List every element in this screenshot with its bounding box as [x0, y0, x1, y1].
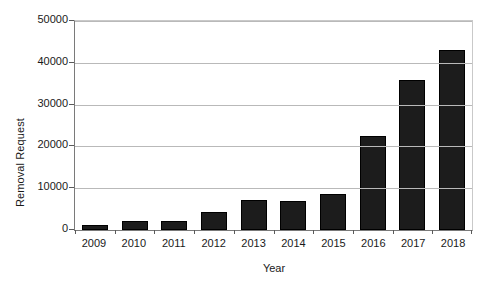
gridline: [75, 105, 472, 106]
bar: [201, 212, 227, 230]
x-axis-tick-label: 2012: [194, 237, 234, 249]
x-axis-tick-mark: [75, 230, 76, 234]
bar-slot: [115, 21, 155, 230]
x-axis-tick-mark: [393, 230, 394, 234]
y-axis-tick-label: 20000: [12, 138, 68, 150]
x-axis-tick-label: 2013: [234, 237, 274, 249]
x-axis-tick-mark: [234, 230, 235, 234]
y-axis-tick-mark: [69, 187, 74, 188]
x-axis-title: Year: [74, 262, 474, 274]
y-axis-tick-mark: [69, 229, 74, 230]
bar: [439, 50, 465, 230]
x-axis-tick-label: 2009: [74, 237, 114, 249]
bar-slot: [234, 21, 274, 230]
bar-slot: [393, 21, 433, 230]
y-axis-tick-label: 10000: [12, 180, 68, 192]
bar-slot: [154, 21, 194, 230]
x-axis-tick-mark: [353, 230, 354, 234]
bar-slot: [432, 21, 472, 230]
x-axis-tick-mark: [154, 230, 155, 234]
y-axis-tick-label: 50000: [12, 13, 68, 25]
bar-slot: [353, 21, 393, 230]
x-axis-tick-mark: [313, 230, 314, 234]
bar-slot: [194, 21, 234, 230]
x-axis-tick-mark: [115, 230, 116, 234]
bar: [241, 200, 267, 230]
bar-slot: [274, 21, 314, 230]
x-axis-tick-mark: [471, 230, 472, 234]
bars-layer: [75, 21, 472, 230]
y-axis-tick-mark: [69, 62, 74, 63]
x-axis-tick-labels: 2009201020112012201320142015201620172018: [74, 237, 473, 249]
x-axis-tick-label: 2017: [393, 237, 433, 249]
bar: [82, 225, 108, 230]
x-axis-tick-label: 2016: [353, 237, 393, 249]
bar: [161, 221, 187, 230]
y-axis-tick-label: 40000: [12, 55, 68, 67]
bar: [280, 201, 306, 230]
bar: [320, 194, 346, 230]
y-axis-tick-label: 0: [12, 222, 68, 234]
x-axis-tick-label: 2018: [433, 237, 473, 249]
y-axis-tick-mark: [69, 20, 74, 21]
bar-chart: Removal Request 010000200003000040000500…: [0, 0, 501, 289]
x-axis-tick-mark: [432, 230, 433, 234]
y-axis-tick-mark: [69, 145, 74, 146]
gridline: [75, 21, 472, 22]
gridline: [75, 188, 472, 189]
bar: [360, 136, 386, 230]
x-axis-tick-label: 2011: [154, 237, 194, 249]
bar: [399, 80, 425, 230]
y-axis-tick-mark: [69, 104, 74, 105]
x-axis-tick-mark: [194, 230, 195, 234]
y-axis-tick-label: 30000: [12, 97, 68, 109]
x-axis-tick-label: 2010: [114, 237, 154, 249]
x-axis-tick-label: 2014: [274, 237, 314, 249]
bar-slot: [75, 21, 115, 230]
bar-slot: [313, 21, 353, 230]
plot-area: [74, 20, 473, 231]
x-axis-tick-label: 2015: [313, 237, 353, 249]
y-axis-title-label: Removal Request: [14, 118, 26, 207]
gridline: [75, 63, 472, 64]
bar: [122, 221, 148, 230]
gridline: [75, 146, 472, 147]
x-axis-tick-mark: [274, 230, 275, 234]
